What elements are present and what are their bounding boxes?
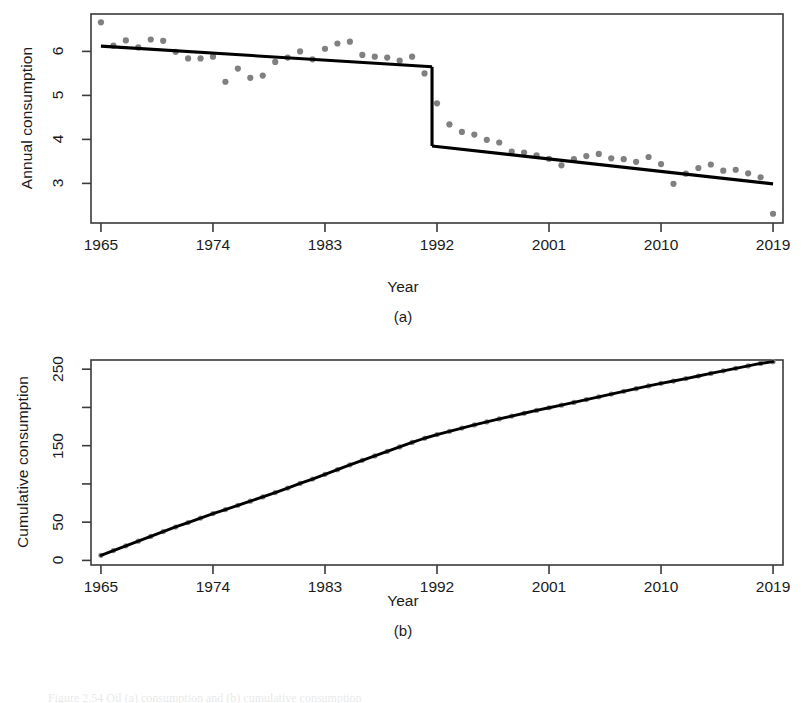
y-tick-label: 4 <box>49 118 67 160</box>
panel-b-cumulative-consumption: Cumulative consumption 19651974198319922… <box>0 330 806 670</box>
panel-b-plot-area <box>0 330 806 575</box>
x-tick-label: 1965 <box>84 236 118 254</box>
panel-a-plot-area <box>0 0 806 250</box>
y-tick-label: 150 <box>49 425 67 467</box>
y-tick-label: 5 <box>49 74 67 116</box>
panel-a-letter: (a) <box>0 308 806 325</box>
x-tick-label: 2010 <box>644 236 678 254</box>
panel-b-letter: (b) <box>0 622 806 639</box>
x-tick-label: 2001 <box>532 236 566 254</box>
panel-a-annual-consumption: Annual consumption 196519741983199220012… <box>0 0 806 330</box>
y-tick-label: 3 <box>49 162 67 204</box>
y-tick-label: 0 <box>49 539 67 581</box>
y-tick-label: 6 <box>49 30 67 72</box>
x-tick-label: 1974 <box>196 236 230 254</box>
figure-root: Annual consumption 196519741983199220012… <box>0 0 806 703</box>
panel-b-x-axis-title: Year <box>0 592 806 610</box>
x-tick-label: 2019 <box>756 236 790 254</box>
figure-caption-partial: Figure 2.54 Oil (a) consumption and (b) … <box>0 691 806 703</box>
panel-a-x-axis-title: Year <box>0 278 806 296</box>
y-tick-label: 250 <box>49 348 67 390</box>
x-tick-label: 1983 <box>308 236 342 254</box>
x-tick-label: 1992 <box>420 236 454 254</box>
y-tick-label: 50 <box>49 501 67 543</box>
